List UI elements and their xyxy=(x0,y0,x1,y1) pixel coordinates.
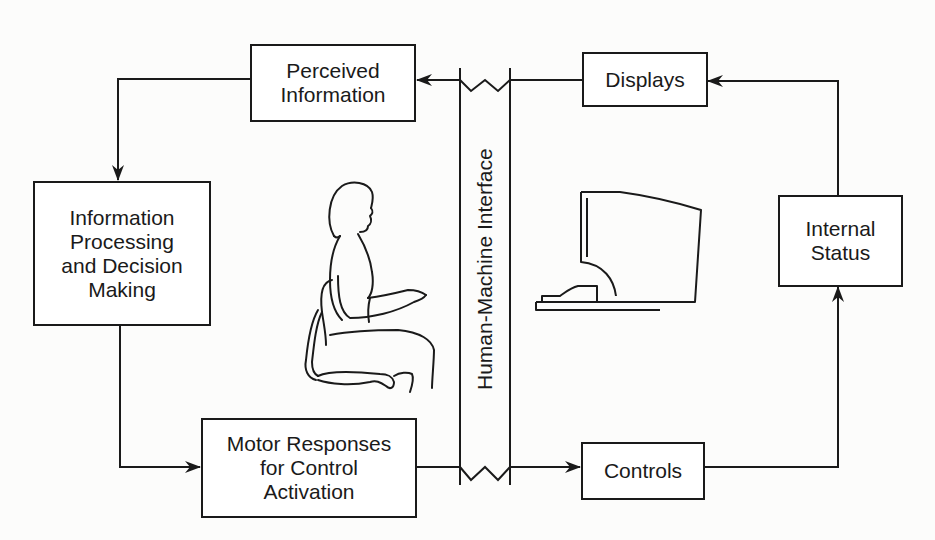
computer-workstation-icon xyxy=(536,192,701,310)
perceived-information-box: Perceived Information xyxy=(250,44,416,122)
information-processing-box: Information Processing and Decision Maki… xyxy=(33,181,211,326)
controls-box: Controls xyxy=(581,442,705,500)
flow-status-to-displays xyxy=(708,81,838,195)
controls-label: Controls xyxy=(604,459,682,483)
displays-box: Displays xyxy=(582,52,708,107)
flow-motor-to-controls xyxy=(416,467,580,480)
motor-responses-box: Motor Responses for Control Activation xyxy=(201,418,417,518)
human-machine-interface-label: Human-Machine Interface xyxy=(473,160,497,390)
information-processing-label: Information Processing and Decision Maki… xyxy=(61,206,182,302)
flow-displays-to-perceived xyxy=(417,80,582,91)
displays-label: Displays xyxy=(605,68,684,92)
flow-processing-to-motor xyxy=(120,326,200,467)
flow-controls-to-status xyxy=(704,287,838,467)
flow-perceived-to-processing xyxy=(118,79,250,180)
perceived-information-label: Perceived Information xyxy=(280,59,385,107)
internal-status-box: Internal Status xyxy=(778,195,903,287)
internal-status-label: Internal Status xyxy=(805,217,875,265)
seated-operator-icon xyxy=(305,183,434,392)
motor-responses-label: Motor Responses for Control Activation xyxy=(227,432,392,504)
